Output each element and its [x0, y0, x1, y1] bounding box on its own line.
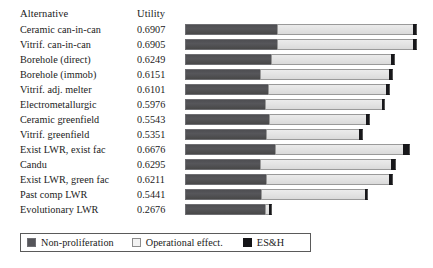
- row-label-alternative: Past comp LWR: [20, 189, 87, 200]
- row-value-utility: 0.6295: [137, 159, 165, 170]
- stacked-bar: [185, 39, 417, 50]
- legend-label-es-and-h: ES&H: [257, 237, 284, 248]
- stacked-bar: [185, 144, 410, 155]
- chart-row: Exist LWR, exist fac0.6676: [0, 143, 433, 158]
- legend-item-non-proliferation: Non-proliferation: [27, 237, 114, 248]
- bar-segment-non-proliferation: [185, 159, 260, 170]
- row-value-utility: 0.2676: [137, 204, 165, 215]
- chart-row: Borehole (direct)0.6249: [0, 53, 433, 68]
- row-value-utility: 0.5441: [137, 189, 165, 200]
- chart-row: Borehole (immob)0.6151: [0, 68, 433, 83]
- bar-segment-es-and-h: [391, 54, 395, 65]
- bar-segment-operational-effect: [275, 144, 403, 155]
- bar-segment-operational-effect: [260, 159, 391, 170]
- stacked-bar: [185, 69, 393, 80]
- bar-segment-operational-effect: [269, 114, 366, 125]
- chart-row: Vitrif. greenfield0.5351: [0, 128, 433, 143]
- bar-segment-es-and-h: [382, 99, 385, 110]
- row-label-alternative: Borehole (immob): [20, 69, 96, 80]
- bar-segment-es-and-h: [389, 69, 393, 80]
- bar-segment-es-and-h: [366, 114, 370, 125]
- bar-segment-non-proliferation: [185, 114, 269, 125]
- bar-segment-non-proliferation: [185, 54, 271, 65]
- bar-segment-es-and-h: [269, 204, 272, 215]
- chart-row: Electrometallurgic0.5976: [0, 98, 433, 113]
- row-label-alternative: Vitrif. adj. melter: [20, 84, 92, 95]
- stacked-bar: [185, 84, 390, 95]
- bar-segment-non-proliferation: [185, 174, 266, 185]
- row-value-utility: 0.5351: [137, 129, 165, 140]
- bar-segment-non-proliferation: [185, 189, 261, 200]
- column-header-alternative: Alternative: [20, 8, 68, 19]
- bar-segment-non-proliferation: [185, 99, 265, 110]
- row-value-utility: 0.6907: [137, 24, 165, 35]
- bar-segment-es-and-h: [359, 129, 363, 140]
- chart-row: Ceramic can-in-can0.6907: [0, 23, 433, 38]
- bar-segment-non-proliferation: [185, 69, 260, 80]
- bar-segment-non-proliferation: [185, 204, 265, 215]
- bar-segment-operational-effect: [265, 99, 382, 110]
- row-label-alternative: Vitrif. can-in-can: [20, 39, 91, 50]
- chart-row: Ceramic greenfield0.5543: [0, 113, 433, 128]
- chart-row: Past comp LWR0.5441: [0, 188, 433, 203]
- legend-item-es-and-h: ES&H: [243, 237, 284, 248]
- bar-segment-non-proliferation: [185, 24, 277, 35]
- bar-segment-es-and-h: [413, 39, 417, 50]
- row-label-alternative: Evolutionary LWR: [20, 204, 98, 215]
- chart-row: Evolutionary LWR0.2676: [0, 203, 433, 218]
- legend-swatch-operational-effect: [132, 238, 141, 247]
- row-value-utility: 0.6249: [137, 54, 165, 65]
- bar-segment-es-and-h: [365, 189, 368, 200]
- row-label-alternative: Ceramic greenfield: [20, 114, 99, 125]
- bar-segment-operational-effect: [266, 174, 389, 185]
- stacked-bar: [185, 54, 395, 65]
- bar-segment-operational-effect: [277, 24, 413, 35]
- bar-segment-operational-effect: [271, 54, 391, 65]
- row-label-alternative: Exist LWR, green fac: [20, 174, 109, 185]
- chart-row: Exist LWR, green fac0.6211: [0, 173, 433, 188]
- legend-label-non-proliferation: Non-proliferation: [41, 237, 114, 248]
- bar-segment-es-and-h: [413, 24, 417, 35]
- row-value-utility: 0.5976: [137, 99, 165, 110]
- bar-segment-non-proliferation: [185, 84, 268, 95]
- bar-segment-es-and-h: [389, 174, 393, 185]
- row-label-alternative: Ceramic can-in-can: [20, 24, 101, 35]
- chart-rows: Ceramic can-in-can0.6907Vitrif. can-in-c…: [0, 23, 433, 218]
- row-label-alternative: Candu: [20, 159, 47, 170]
- chart-row: Vitrif. adj. melter0.6101: [0, 83, 433, 98]
- stacked-bar: [185, 204, 272, 215]
- stacked-bar: [185, 99, 385, 110]
- bar-segment-non-proliferation: [185, 39, 277, 50]
- row-value-utility: 0.6676: [137, 144, 165, 155]
- bar-segment-operational-effect: [260, 69, 389, 80]
- stacked-bar: [185, 24, 417, 35]
- row-label-alternative: Vitrif. greenfield: [20, 129, 89, 140]
- row-value-utility: 0.5543: [137, 114, 165, 125]
- row-value-utility: 0.6905: [137, 39, 165, 50]
- stacked-bar: [185, 114, 370, 125]
- bar-segment-operational-effect: [268, 84, 386, 95]
- row-value-utility: 0.6101: [137, 84, 165, 95]
- row-value-utility: 0.6211: [137, 174, 165, 185]
- bar-segment-non-proliferation: [185, 144, 275, 155]
- chart-row: Candu0.6295: [0, 158, 433, 173]
- stacked-bar: [185, 159, 396, 170]
- legend-swatch-es-and-h: [243, 238, 252, 247]
- row-value-utility: 0.6151: [137, 69, 165, 80]
- stacked-bar: [185, 129, 363, 140]
- bar-segment-operational-effect: [261, 189, 365, 200]
- row-label-alternative: Borehole (direct): [20, 54, 91, 65]
- bar-segment-es-and-h: [386, 84, 390, 95]
- row-label-alternative: Exist LWR, exist fac: [20, 144, 106, 155]
- chart-row: Vitrif. can-in-can0.6905: [0, 38, 433, 53]
- stacked-bar: [185, 174, 393, 185]
- bar-segment-operational-effect: [266, 129, 359, 140]
- legend-label-operational-effect: Operational effect.: [146, 237, 223, 248]
- bar-segment-operational-effect: [277, 39, 413, 50]
- bar-segment-non-proliferation: [185, 129, 266, 140]
- chart-legend: Non-proliferationOperational effect.ES&H: [20, 233, 311, 252]
- row-label-alternative: Electrometallurgic: [20, 99, 97, 110]
- legend-swatch-non-proliferation: [27, 238, 36, 247]
- column-header-utility: Utility: [137, 8, 165, 19]
- stacked-bar-chart: Alternative Utility Ceramic can-in-can0.…: [0, 0, 433, 268]
